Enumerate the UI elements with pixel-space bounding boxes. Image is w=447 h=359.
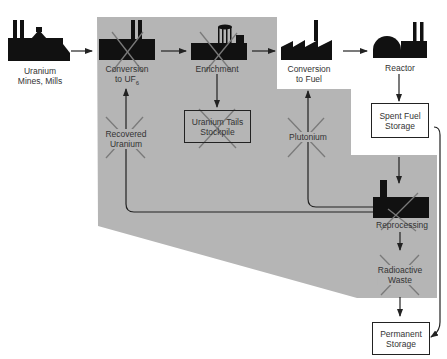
box-spent-fuel-storage: Spent Fuel Storage <box>371 103 429 138</box>
label-permanent-line2: Storage <box>380 339 422 349</box>
label-spent-line2: Storage <box>379 121 420 131</box>
label-conversion-uf6: Conversion to UF6 <box>106 64 149 88</box>
label-waste-line2: Waste <box>378 275 422 285</box>
label-mines-line1: Uranium <box>18 66 62 76</box>
label-reactor: Reactor <box>385 63 415 73</box>
label-uf6-line1: Conversion <box>106 64 149 74</box>
label-mines: Uranium Mines, Mills <box>18 66 62 86</box>
label-plutonium-line1: Plutonium <box>289 132 327 142</box>
label-uf6-subscript: 6 <box>136 80 139 86</box>
label-uf6-text: to UF <box>115 74 136 84</box>
label-enrichment: Enrichment <box>196 64 239 74</box>
label-reprocessing-line1: Reprocessing <box>376 220 428 230</box>
label-spent-line1: Spent Fuel <box>379 111 420 121</box>
label-recovered-line1: Recovered <box>105 129 146 139</box>
label-reprocessing: Reprocessing <box>376 220 428 230</box>
box-uranium-tails: Uranium Tails Stockpile <box>184 110 251 143</box>
label-enrichment-line1: Enrichment <box>196 64 239 74</box>
label-tails-line1: Uranium Tails <box>192 117 243 127</box>
label-conversion-fuel: Conversion to Fuel <box>288 64 331 84</box>
box-spent-text: Spent Fuel Storage <box>379 111 420 131</box>
reactor-dome-icon <box>373 22 427 58</box>
label-uf6-line2: to UF6 <box>106 74 149 88</box>
sawtooth-factory-icon <box>281 20 332 60</box>
label-tails-line2: Stockpile <box>192 127 243 137</box>
label-waste-line1: Radioactive <box>378 265 422 275</box>
label-reactor-line1: Reactor <box>385 63 415 73</box>
label-fuel-line1: Conversion <box>288 64 331 74</box>
mine-mill-icon <box>8 20 70 61</box>
label-fuel-line2: to Fuel <box>288 74 331 84</box>
box-permanent-text: Permanent Storage <box>380 329 422 349</box>
box-tails-text: Uranium Tails Stockpile <box>192 117 243 137</box>
label-recovered-uranium: Recovered Uranium <box>105 129 146 149</box>
label-radioactive-waste: Radioactive Waste <box>378 265 422 285</box>
label-permanent-line1: Permanent <box>380 329 422 339</box>
label-mines-line2: Mines, Mills <box>18 76 62 86</box>
box-permanent-storage: Permanent Storage <box>372 322 430 355</box>
diagram-canvas <box>0 0 447 359</box>
label-plutonium: Plutonium <box>289 132 327 142</box>
label-recovered-line2: Uranium <box>105 139 146 149</box>
